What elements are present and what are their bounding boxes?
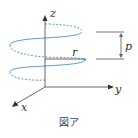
figure-caption: 図ア (59, 117, 79, 128)
axes (16, 19, 110, 104)
radius-label: r (72, 46, 78, 59)
y-axis-label: y (114, 83, 122, 96)
x-axis-label: x (21, 101, 28, 114)
z-arrow-icon (43, 15, 48, 21)
axis-arrowheads (12, 15, 114, 107)
pitch-label: p (125, 40, 132, 53)
helix-diagram: z y x r p 図ア (0, 0, 138, 138)
x-arrow-icon (12, 101, 19, 107)
z-axis-label: z (49, 7, 56, 20)
helix-point (84, 58, 86, 60)
y-arrow-icon (108, 85, 114, 90)
